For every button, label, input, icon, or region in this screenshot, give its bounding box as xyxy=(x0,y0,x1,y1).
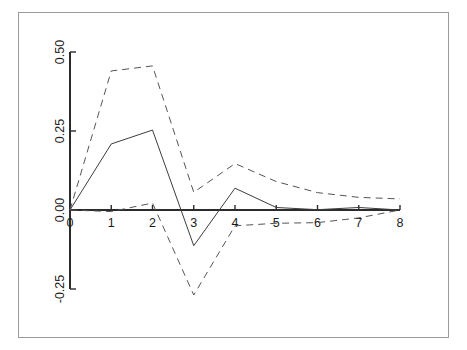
chart-svg: 012345678 -0.250.000.250.50 xyxy=(0,0,467,350)
y-axis-tick-labels: -0.250.000.250.50 xyxy=(53,40,67,303)
x-tick-label-0: 0 xyxy=(67,216,74,230)
x-tick-label-2: 2 xyxy=(149,216,156,230)
x-tick-label-1: 1 xyxy=(108,216,115,230)
x-tick-label-6: 6 xyxy=(314,216,321,230)
x-tick-label-3: 3 xyxy=(190,216,197,230)
x-tick-label-4: 4 xyxy=(232,216,239,230)
data-series-group xyxy=(70,66,400,295)
x-axis-tick-labels: 012345678 xyxy=(67,216,404,230)
figure-canvas: 012345678 -0.250.000.250.50 xyxy=(0,0,467,350)
x-tick-label-8: 8 xyxy=(397,216,404,230)
y-tick-label-0.50: 0.50 xyxy=(53,40,67,64)
axes-group xyxy=(70,52,400,289)
y-tick-label-0.25: 0.25 xyxy=(53,119,67,143)
y-tick-label-0.00: 0.00 xyxy=(53,198,67,222)
y-tick-label--0.25: -0.25 xyxy=(53,275,67,304)
